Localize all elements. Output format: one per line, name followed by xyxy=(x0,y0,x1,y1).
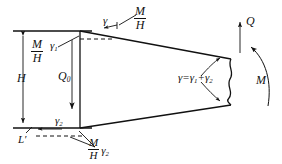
m-over-h-bottom-denominator: H xyxy=(88,149,99,162)
l-prime-label: L′ xyxy=(18,134,27,145)
m-over-h-bottom-fraction: M H xyxy=(88,137,99,161)
gamma2-factor-subscript: 2 xyxy=(106,149,109,156)
wedge-top-edge xyxy=(80,31,231,59)
m-over-h-bottom-numerator: M xyxy=(88,137,99,149)
gamma2-subscript: 2 xyxy=(59,120,62,127)
m-over-h-gamma2-label: M H γ2 xyxy=(88,137,109,161)
gamma2-factor: γ2 xyxy=(101,145,109,158)
gamma-sum-leader-lower xyxy=(201,82,220,101)
m-over-h-top-label: M H xyxy=(134,5,146,31)
q0-subscript: 0 xyxy=(67,75,71,84)
broken-section-edge xyxy=(228,59,232,105)
gamma-sum-equation: γ=γ1+γ2 xyxy=(178,72,213,85)
wedge-bottom-edge xyxy=(80,105,231,128)
q0-label: Q0 xyxy=(58,70,70,83)
height-h-label: H xyxy=(17,72,26,84)
gamma-sum-sub2: 2 xyxy=(209,77,212,84)
m-over-h-left-label: M H xyxy=(31,38,43,64)
m-moment-label: M xyxy=(256,74,266,86)
q0-symbol: Q xyxy=(58,69,67,83)
m-over-h-left-denominator: H xyxy=(31,51,43,65)
gamma1-leader xyxy=(58,36,79,47)
gamma-sum-plus: +γ xyxy=(198,71,210,83)
gamma1-subscript: 1 xyxy=(54,45,57,52)
m-over-h-top-denominator: H xyxy=(134,18,146,32)
m-over-h-left-numerator: M xyxy=(31,38,43,51)
m-over-h-top-numerator: M xyxy=(134,5,146,18)
gamma-sum-lhs: γ=γ xyxy=(178,71,194,83)
gamma1-label: γ1 xyxy=(50,40,58,53)
gamma-top-label: γ xyxy=(103,15,107,26)
q-shear-label: Q xyxy=(246,15,255,27)
gamma2-bottom-label: γ2 xyxy=(55,115,63,128)
